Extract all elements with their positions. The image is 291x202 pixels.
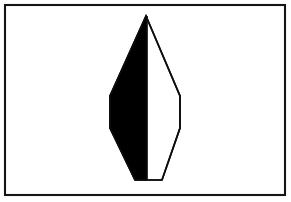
figure-svg	[0, 0, 291, 202]
drawing-canvas	[0, 0, 291, 202]
hexagon-left-half-black	[110, 16, 147, 180]
